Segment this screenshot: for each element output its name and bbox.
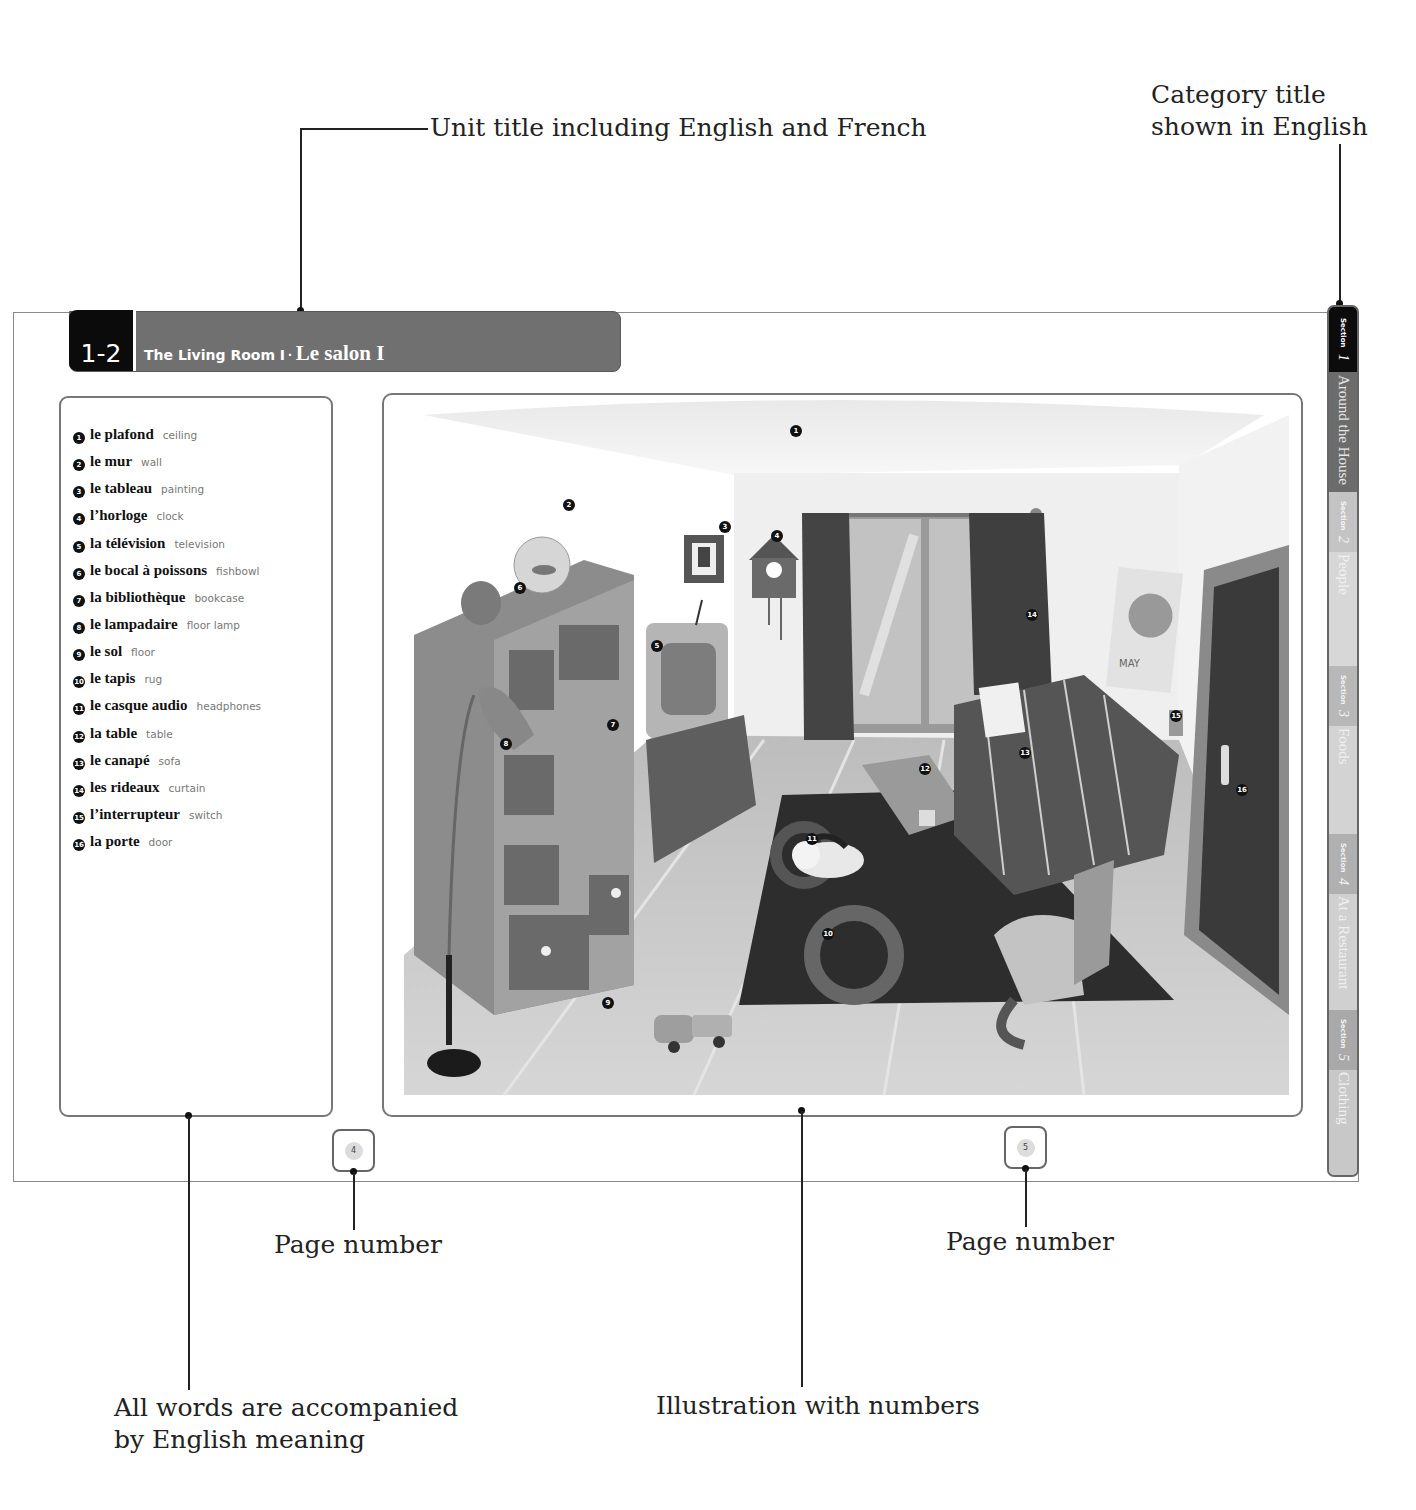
vocab-english: fishbowl xyxy=(216,565,259,577)
section-label: Clothing xyxy=(1335,1072,1352,1125)
callout-category-line1: Category title xyxy=(1151,79,1368,111)
vocab-french: le casque audio xyxy=(90,697,188,714)
vocab-english: rug xyxy=(144,673,162,685)
vocab-item: 13le canapésofa xyxy=(73,752,331,779)
marker-clock: 4 xyxy=(771,530,783,542)
unit-header: 1-2 The Living Room I · Le salon I xyxy=(69,311,621,372)
number-badge: 3 xyxy=(73,486,85,498)
vocab-item: 1le plafondceiling xyxy=(73,426,331,453)
vocab-french: le tapis xyxy=(90,670,135,687)
vocab-english: ceiling xyxy=(163,429,197,441)
number-badge: 2 xyxy=(73,459,85,471)
section-tabs: Section 1 Around the House Section 2 Peo… xyxy=(1327,305,1359,1177)
vocab-french: l’horloge xyxy=(90,507,148,524)
calendar-month: MAY xyxy=(1119,658,1141,669)
marker-table: 12 xyxy=(919,763,931,775)
leader-line xyxy=(353,1172,355,1230)
leader-line xyxy=(1025,1169,1027,1227)
marker-fishbowl: 6 xyxy=(514,582,526,594)
number-badge: 14 xyxy=(73,785,85,797)
number-badge: 8 xyxy=(73,622,85,634)
vocab-english: bookcase xyxy=(194,592,244,604)
section-label: Around the House xyxy=(1335,375,1352,485)
number-badge: 15 xyxy=(73,812,85,824)
marker-door: 16 xyxy=(1236,784,1248,796)
vocab-french: le canapé xyxy=(90,752,150,769)
vocab-french: le tableau xyxy=(90,480,152,497)
vocab-french: la porte xyxy=(90,833,140,850)
callout-page-number-right: Page number xyxy=(946,1226,1114,1258)
vocab-item: 14les rideauxcurtain xyxy=(73,779,331,806)
section-prefix: Section xyxy=(1339,675,1347,704)
callout-category-line2: shown in English xyxy=(1151,111,1368,143)
vocab-french: l’interrupteur xyxy=(90,806,180,823)
callout-category-title: Category title shown in English xyxy=(1151,79,1368,143)
section-tab-1[interactable]: Section 1 Around the House xyxy=(1329,307,1357,492)
vocab-french: la télévision xyxy=(90,535,165,552)
leader-line xyxy=(188,1116,190,1390)
living-room-scene: MAY xyxy=(384,395,1303,1117)
vocab-french: le mur xyxy=(90,453,132,470)
callout-unit-title: Unit title including English and French xyxy=(430,112,927,144)
vocab-english: floor xyxy=(131,646,155,658)
number-badge: 9 xyxy=(73,649,85,661)
section-number: 3 xyxy=(1335,710,1351,717)
section-tab-5[interactable]: Section 5 Clothing xyxy=(1329,1010,1357,1177)
section-tab-3[interactable]: Section 3 Foods xyxy=(1329,666,1357,834)
vocab-french: le sol xyxy=(90,643,122,660)
vocab-english: clock xyxy=(157,510,184,522)
marker-bookcase: 7 xyxy=(607,719,619,731)
living-room-illustration: MAY xyxy=(382,393,1303,1117)
number-badge: 16 xyxy=(73,839,85,851)
vocab-item: 11le casque audioheadphones xyxy=(73,697,331,724)
section-prefix: Section xyxy=(1339,318,1347,347)
vocab-french: le plafond xyxy=(90,426,154,443)
section-number: 1 xyxy=(1335,354,1351,361)
vocab-item: 6le bocal à poissonsfishbowl xyxy=(73,562,331,589)
callout-english-meaning: All words are accompanied by English mea… xyxy=(114,1392,458,1456)
section-number: 4 xyxy=(1335,878,1351,885)
marker-ceiling: 1 xyxy=(790,425,802,437)
vocab-item: 8le lampadairefloor lamp xyxy=(73,616,331,643)
vocab-item: 4l’horlogeclock xyxy=(73,507,331,534)
unit-title-separator: · xyxy=(288,347,293,363)
vocab-item: 10le tapisrug xyxy=(73,670,331,697)
vocab-item: 12la tabletable xyxy=(73,725,331,752)
section-tab-4[interactable]: Section 4 At a Restaurant xyxy=(1329,834,1357,1010)
number-badge: 1 xyxy=(73,432,85,444)
vocab-item: 9le solfloor xyxy=(73,643,331,670)
page-number-left: 4 xyxy=(332,1129,375,1172)
marker-switch: 15 xyxy=(1170,710,1182,722)
vocab-item: 16la portedoor xyxy=(73,833,331,860)
vocab-english: wall xyxy=(141,456,162,468)
leader-line xyxy=(1339,144,1341,304)
vocab-item: 7la bibliothèquebookcase xyxy=(73,589,331,616)
vocab-english: table xyxy=(146,728,173,740)
number-badge: 6 xyxy=(73,568,85,580)
section-prefix: Section xyxy=(1339,501,1347,530)
unit-title: The Living Room I · Le salon I xyxy=(136,341,384,371)
number-badge: 11 xyxy=(73,703,85,715)
vocab-english: sofa xyxy=(159,755,181,767)
leader-line xyxy=(300,128,302,310)
vocab-french: le bocal à poissons xyxy=(90,562,207,579)
vocab-item: 15l’interrupteurswitch xyxy=(73,806,331,833)
marker-floor-lamp: 8 xyxy=(500,738,512,750)
vocab-french: le lampadaire xyxy=(90,616,178,633)
marker-rug: 10 xyxy=(822,928,834,940)
marker-wall: 2 xyxy=(563,499,575,511)
unit-title-french: Le salon I xyxy=(296,341,385,366)
section-label: Foods xyxy=(1335,728,1352,765)
vocab-english: television xyxy=(174,538,225,550)
number-badge: 12 xyxy=(73,731,85,743)
unit-number: 1-2 xyxy=(69,310,136,371)
leader-line xyxy=(801,1111,803,1387)
number-badge: 5 xyxy=(73,541,85,553)
section-tab-2[interactable]: Section 2 People xyxy=(1329,492,1357,666)
callout-words-line2: by English meaning xyxy=(114,1424,458,1456)
leader-line xyxy=(300,128,428,130)
number-badge: 4 xyxy=(73,513,85,525)
number-badge: 13 xyxy=(73,758,85,770)
vocab-english: curtain xyxy=(169,782,206,794)
marker-floor: 9 xyxy=(602,997,614,1009)
